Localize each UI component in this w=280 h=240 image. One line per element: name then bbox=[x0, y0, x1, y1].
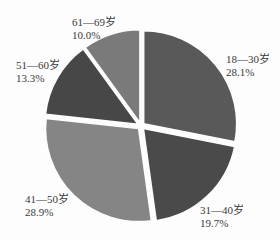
slice-label-name: 61—69岁 bbox=[72, 16, 116, 29]
slice-label-percent: 28.1% bbox=[226, 66, 270, 79]
slice-label-31-40: 31—40岁 19.7% bbox=[200, 204, 244, 230]
slice-label-name: 31—40岁 bbox=[200, 204, 244, 217]
slice-label-41-50: 41—50岁 28.9% bbox=[25, 193, 69, 219]
slice-label-percent: 28.9% bbox=[25, 206, 69, 219]
slice-label-percent: 13.3% bbox=[16, 72, 60, 85]
pie-slice bbox=[144, 31, 237, 142]
slice-label-name: 51—60岁 bbox=[16, 59, 60, 72]
slice-label-name: 18—30岁 bbox=[226, 53, 270, 66]
figure-caption-cropped: ▂▂▂▂▂▂▂▂▂▂▂▂ bbox=[90, 232, 190, 240]
slice-label-51-60: 51—60岁 13.3% bbox=[16, 59, 60, 85]
slice-label-61-69: 61—69岁 10.0% bbox=[72, 16, 116, 42]
slice-label-18-30: 18—30岁 28.1% bbox=[226, 53, 270, 79]
slice-label-percent: 19.7% bbox=[200, 217, 244, 230]
slice-label-name: 41—50岁 bbox=[25, 193, 69, 206]
slice-label-percent: 10.0% bbox=[72, 29, 116, 42]
